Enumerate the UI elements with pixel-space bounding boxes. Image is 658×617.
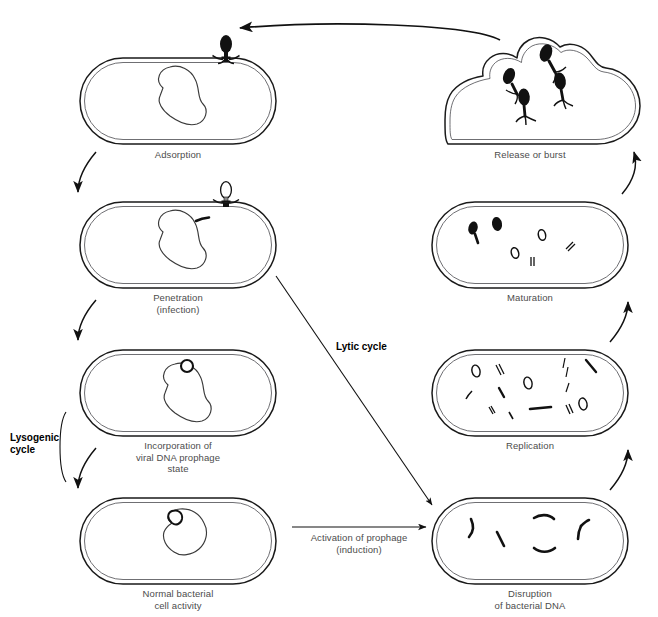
label-penetration: Penetration (infection): [108, 292, 248, 315]
label-activation-of-prophage: Activation of prophage (induction): [285, 532, 433, 555]
label-lysogenic-cycle: Lysogenic cycle: [10, 432, 68, 456]
label-normal-activity: Normal bacterial cell activity: [108, 588, 248, 611]
cell-normal: [80, 498, 276, 584]
cell-adsorption: [80, 58, 276, 144]
label-incorporation: Incorporation of viral DNA prophage stat…: [108, 440, 248, 475]
label-maturation: Maturation: [460, 292, 600, 304]
label-replication: Replication: [460, 440, 600, 452]
label-adsorption: Adsorption: [108, 149, 248, 161]
cell-incorporation: [80, 350, 276, 436]
diagram-vector-layer: [0, 0, 658, 617]
arrow-release-to-adsorption: [240, 24, 500, 40]
cell-replication: [432, 350, 628, 436]
arrow-maturation-to-release: [622, 152, 636, 194]
arrow-lytic-diagonal: [276, 276, 432, 505]
arrow-incorporation-to-normal: [78, 448, 96, 488]
arrow-replication-to-maturation: [610, 302, 628, 342]
label-lytic-cycle: Lytic cycle: [336, 341, 426, 353]
label-disruption: Disruption of bacterial DNA: [460, 588, 600, 611]
arrow-penetration-to-incorporation: [78, 300, 96, 340]
arrow-adsorption-to-penetration: [78, 152, 96, 192]
diagram-canvas: Adsorption Penetration (infection) Incor…: [0, 0, 658, 617]
label-release: Release or burst: [460, 149, 600, 161]
arrow-disruption-to-replication: [610, 450, 628, 490]
cell-disruption: [432, 498, 628, 584]
cell-maturation: [432, 202, 628, 288]
cell-penetration: [80, 202, 276, 288]
